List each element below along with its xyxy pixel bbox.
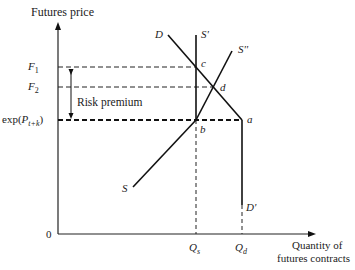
point-d-label: d [220,82,226,93]
exp-prefix: exp( [2,113,22,125]
f1-sub: 1 [35,66,39,75]
supply-s-line [133,120,196,187]
point-b-label: b [200,124,206,135]
curve-d-prime-label: D' [246,202,256,213]
exp-sub: t+k [28,119,39,128]
x-axis-label-line1: Quantity of [292,240,342,251]
qd-label: Qd [235,242,247,256]
f2-symbol: F [28,80,35,92]
diagram-canvas [0,0,355,270]
exp-suffix: ) [39,113,43,125]
demand-d-line [168,35,242,120]
curve-s-prime-label: S' [201,29,209,40]
exp-label: exp(Pt+k) [2,114,43,128]
point-c-label: c [201,58,206,69]
curve-s-label: S [122,183,128,194]
f1-label: F1 [28,61,39,75]
y-axis-label: Futures price [31,6,94,18]
risk-premium-label: Risk premium [77,97,143,109]
qd-sub: d [243,247,247,256]
point-a-label: a [247,114,253,125]
curve-d-label: D [155,29,163,40]
origin-label: 0 [46,229,52,240]
f2-label: F2 [28,81,39,95]
curve-s-double-prime-label: S'' [238,44,248,55]
qs-label: Qs [189,242,200,256]
qd-symbol: Q [235,241,243,253]
x-axis-label-line2: futures contracts [277,253,350,264]
f1-symbol: F [28,60,35,72]
qs-symbol: Q [189,241,197,253]
f2-sub: 2 [35,86,39,95]
qs-sub: s [197,247,200,256]
